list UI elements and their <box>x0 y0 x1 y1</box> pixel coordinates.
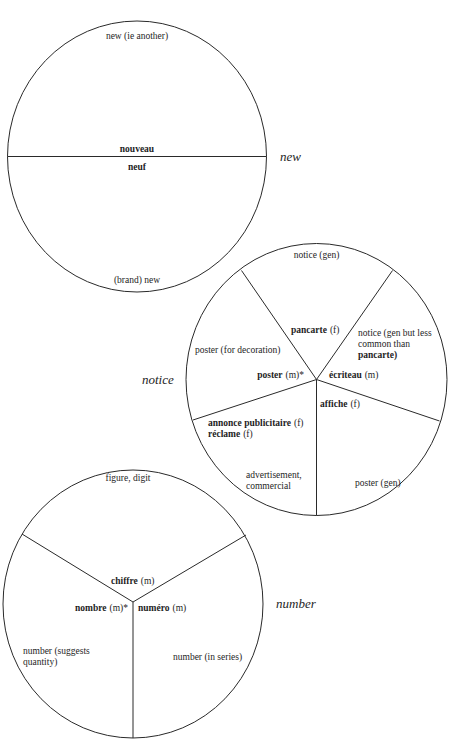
gender-marker: (f) <box>294 418 304 429</box>
term-word: affiche <box>320 399 347 409</box>
term-poster: poster(m)* <box>257 370 304 381</box>
gloss-notice-less-common: notice (gen but less common than pancart… <box>358 328 434 361</box>
gender-marker: (m) <box>141 576 155 587</box>
gloss-figure-digit: figure, digit <box>106 473 151 483</box>
diagram-notice: notice (gen) pancarte(f) notice (gen but… <box>142 244 447 516</box>
term-annonce-publicitaire: annonce publicitaire(f) <box>208 418 303 429</box>
term-nombre: nombre(m)* <box>75 603 128 614</box>
gloss-line-1: advertisement, <box>246 470 302 480</box>
side-label-number: number <box>276 596 317 611</box>
term-word: réclame <box>208 429 240 439</box>
gloss-line-2: quantity) <box>23 657 57 668</box>
gloss-brand-new: (brand) new <box>114 275 160 286</box>
spoke-upper-right <box>317 271 393 380</box>
gloss-new-ie-another: new (ie another) <box>106 31 168 42</box>
term-affiche: affiche(f) <box>320 399 360 410</box>
gender-marker: (m)* <box>286 370 305 381</box>
gender-marker: (m)* <box>110 603 129 614</box>
gloss-notice-gen: notice (gen) <box>294 250 340 261</box>
term-word: écriteau <box>329 370 362 380</box>
spoke-upper-right <box>133 535 246 602</box>
gloss-poster-decoration: poster (for decoration) <box>195 345 280 356</box>
gloss-line-2: common than <box>358 339 410 349</box>
gloss-line-1: notice (gen but less <box>358 328 432 339</box>
term-word: pancarte <box>291 325 327 335</box>
gloss-line-2: commercial <box>246 481 291 491</box>
term-word: nombre <box>75 603 107 613</box>
side-label-notice: notice <box>142 372 174 387</box>
term-numero: numéro(m) <box>138 603 186 614</box>
diagram-new: new (ie another) nouveau neuf (brand) ne… <box>8 21 302 292</box>
side-label-new: new <box>280 149 301 164</box>
term-word: numéro <box>138 603 170 613</box>
gender-marker: (m) <box>173 603 187 614</box>
gender-marker: (f) <box>330 325 340 336</box>
term-pancarte: pancarte(f) <box>291 325 339 336</box>
term-ecriteau: écriteau(m) <box>329 370 378 381</box>
spoke-left <box>193 380 317 421</box>
term-nouveau: nouveau <box>120 144 155 154</box>
gloss-advertisement: advertisement, commercial <box>246 470 304 491</box>
gloss-number-quantity: number (suggests quantity) <box>23 646 92 668</box>
gloss-number-in-series: number (in series) <box>173 652 242 663</box>
spoke-upper-left <box>22 534 133 602</box>
gloss-line-1: number (suggests <box>23 646 90 657</box>
semantic-field-diagrams: new (ie another) nouveau neuf (brand) ne… <box>0 0 461 750</box>
gender-marker: (f) <box>350 399 360 410</box>
term-word: poster <box>257 370 283 380</box>
term-reclame: réclame(f) <box>208 429 253 440</box>
gender-marker: (m) <box>365 370 379 381</box>
term-word: annonce publicitaire <box>208 418 291 428</box>
term-neuf: neuf <box>128 162 147 172</box>
gloss-poster-gen: poster (gen) <box>355 478 401 489</box>
diagram-number: figure, digit chiffre(m) numéro(m) numbe… <box>3 470 317 738</box>
gloss-line-3: pancarte) <box>358 350 397 361</box>
term-chiffre: chiffre(m) <box>111 576 154 587</box>
term-word: chiffre <box>111 576 138 586</box>
gender-marker: (f) <box>243 429 253 440</box>
